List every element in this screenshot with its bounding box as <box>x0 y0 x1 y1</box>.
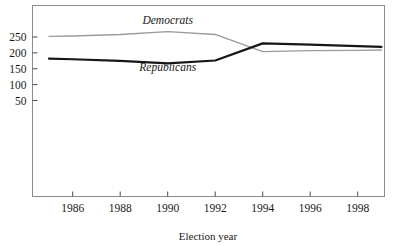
line-chart: 50100150200250 1986198819901992199419961… <box>0 0 407 246</box>
y-tick-label: 100 <box>9 79 27 91</box>
x-tick-label: 1988 <box>109 202 132 214</box>
series-label-republicans: Republicans <box>138 61 196 74</box>
series-label-democrats: Democrats <box>141 14 193 26</box>
x-axis-title: Election year <box>179 230 238 242</box>
y-tick-label: 250 <box>9 31 27 43</box>
y-tick-label: 150 <box>9 63 27 75</box>
x-tick-label: 1990 <box>156 202 179 214</box>
chart-canvas: 50100150200250 1986198819901992199419961… <box>0 0 407 246</box>
x-tick-label: 1986 <box>61 202 84 214</box>
y-tick-label: 200 <box>9 47 27 59</box>
x-tick-label: 1996 <box>299 202 322 214</box>
y-tick-label: 50 <box>15 95 27 107</box>
x-tick-label: 1992 <box>204 202 227 214</box>
x-tick-label: 1998 <box>346 202 369 214</box>
x-tick-label: 1994 <box>251 202 274 214</box>
